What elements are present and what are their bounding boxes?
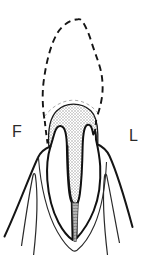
dental-diagram: F L xyxy=(0,0,147,266)
facial-label: F xyxy=(12,123,22,140)
lingual-label: L xyxy=(129,127,138,144)
tooth-cross-section-figure: F L xyxy=(0,0,147,266)
bone-crest-right xyxy=(104,174,120,255)
bone-crest-left xyxy=(22,174,37,255)
gingiva-right xyxy=(97,144,133,227)
crown-margin-dashed-left xyxy=(45,121,48,144)
